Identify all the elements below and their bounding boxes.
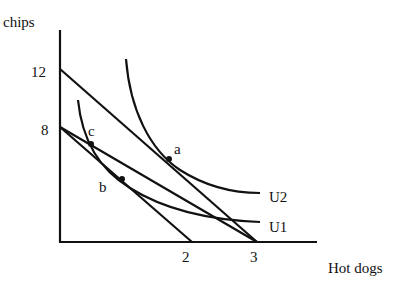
y-tick-12: 12 (31, 64, 46, 80)
budget-line-12-3 (60, 69, 257, 242)
indifference-curve-diagram: chips Hot dogs 12 8 2 3 U2 U1 a b c (0, 0, 409, 286)
indifference-curve-u2 (126, 59, 260, 193)
y-axis-label: chips (3, 14, 35, 30)
point-b-label: b (99, 179, 107, 195)
y-tick-8: 8 (41, 122, 49, 138)
point-c-label: c (88, 123, 95, 139)
point-b (119, 176, 125, 182)
u2-label: U2 (269, 189, 287, 205)
point-a (166, 156, 172, 162)
x-tick-2: 2 (182, 249, 190, 265)
x-axis-label: Hot dogs (328, 260, 383, 276)
point-c (88, 141, 94, 147)
point-a-label: a (174, 141, 181, 157)
u1-label: U1 (269, 219, 287, 235)
x-tick-3: 3 (250, 249, 258, 265)
